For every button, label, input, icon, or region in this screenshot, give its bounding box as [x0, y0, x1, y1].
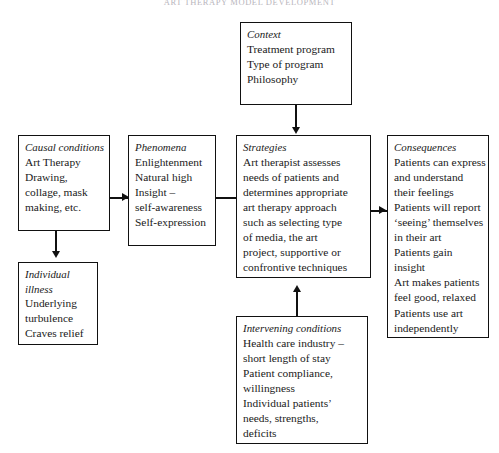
box-consequences-line: Patients use art [394, 306, 483, 321]
box-intervening-conditions-line: willingness [243, 381, 362, 396]
connector-intervening-to-strategies [296, 292, 298, 316]
connector-causal-to-individual-illness [55, 231, 57, 253]
box-strategies-line: of media, the art [243, 230, 365, 245]
box-consequences-line: Patients can express [394, 155, 483, 170]
box-phenomena-line: Enlightenment [135, 155, 210, 170]
box-intervening-conditions-line: Health care industry – [243, 336, 362, 351]
box-context-line: Philosophy [247, 72, 346, 87]
box-strategies-line: determines appropriate [243, 185, 365, 200]
box-consequences-line: in their art [394, 230, 483, 245]
box-phenomena-line: Natural high [135, 170, 210, 185]
box-individual-illness-heading: Individual [25, 267, 92, 282]
box-intervening-conditions-heading: Intervening conditions [243, 321, 362, 336]
box-consequences-line: and understand [394, 170, 483, 185]
box-context: Context Treatment program Type of progra… [240, 22, 352, 105]
box-strategies-heading: Strategies [243, 140, 365, 155]
box-consequences-heading: Consequences [394, 140, 483, 155]
box-strategies-line: confrontive techniques [243, 260, 365, 275]
box-consequences-line: Patients will report [394, 200, 483, 215]
box-causal-conditions-line: making, etc. [25, 200, 104, 215]
box-strategies-line: such as selecting type [243, 215, 365, 230]
box-phenomena-line: self-awareness [135, 200, 210, 215]
box-strategies-line: project, supportive or [243, 245, 365, 260]
box-phenomena-line: Insight – [135, 185, 210, 200]
box-causal-conditions-heading: Causal conditions [25, 140, 104, 155]
box-strategies-line: Art therapist assesses [243, 155, 365, 170]
box-intervening-conditions-line: needs, strengths, [243, 411, 362, 426]
box-causal-conditions: Causal conditions Art Therapy Drawing, c… [18, 135, 110, 231]
box-intervening-conditions-line: Individual patients’ [243, 396, 362, 411]
box-individual-illness-line: turbulence [25, 311, 92, 326]
connector-context-to-strategies [295, 105, 297, 129]
box-consequences-line: their feelings [394, 185, 483, 200]
box-causal-conditions-line: Art Therapy [25, 155, 104, 170]
box-consequences-line: independently [394, 321, 483, 336]
box-intervening-conditions-line: short length of stay [243, 351, 362, 366]
box-intervening-conditions-line: Patient compliance, [243, 366, 362, 381]
box-intervening-conditions: Intervening conditions Health care indus… [236, 316, 368, 444]
box-intervening-conditions-line: deficits [243, 426, 362, 441]
box-phenomena-line: Self-expression [135, 215, 210, 230]
box-consequences-line: feel good, relaxed [394, 290, 483, 305]
box-individual-illness-heading: illness [25, 282, 92, 297]
box-strategies: Strategies Art therapist assesses needs … [236, 135, 371, 278]
box-consequences-line: Art makes patients [394, 275, 483, 290]
box-individual-illness-line: Craves relief [25, 326, 92, 341]
box-causal-conditions-line: collage, mask [25, 185, 104, 200]
box-consequences: Consequences Patients can express and un… [387, 135, 489, 338]
box-individual-illness: Individual illness Underlying turbulence… [18, 262, 98, 345]
box-consequences-line: Patients gain [394, 245, 483, 260]
box-context-line: Treatment program [247, 42, 346, 57]
box-strategies-line: needs of patients and [243, 170, 365, 185]
connector-phenomena-to-strategies [216, 197, 236, 199]
box-strategies-line: art therapy approach [243, 200, 365, 215]
box-individual-illness-line: Underlying [25, 296, 92, 311]
arrowhead-context-to-strategies [292, 127, 300, 134]
box-causal-conditions-line: Drawing, [25, 170, 104, 185]
box-context-line: Type of program [247, 57, 346, 72]
arrowhead-causal-to-individual-illness [52, 251, 60, 258]
box-phenomena-heading: Phenomena [135, 140, 210, 155]
diagram-canvas: ART THERAPY MODEL DEVELOPMENT Context Tr… [0, 0, 499, 453]
arrowhead-strategies-to-consequences [379, 206, 386, 214]
box-consequences-line: ‘seeing’ themselves [394, 215, 483, 230]
arrowhead-intervening-to-strategies [293, 285, 301, 292]
box-phenomena: Phenomena Enlightenment Natural high Ins… [128, 135, 216, 246]
box-context-heading: Context [247, 27, 346, 42]
box-consequences-line: insight [394, 260, 483, 275]
running-head: ART THERAPY MODEL DEVELOPMENT [0, 0, 499, 5]
